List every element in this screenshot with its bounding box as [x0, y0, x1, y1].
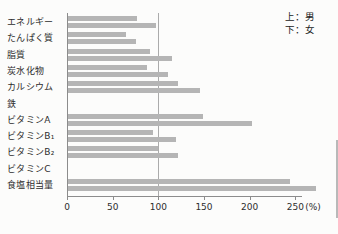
- x-tick-label-0: 0: [64, 202, 70, 212]
- x-tick-250: [295, 197, 296, 200]
- category-label-6: ビタミンA: [7, 115, 51, 125]
- bar-female-3: [68, 72, 168, 77]
- bar-male-0: [68, 16, 137, 21]
- bar-male-3: [68, 65, 147, 70]
- category-label-0: エネルギー: [7, 17, 54, 27]
- x-tick-50: [113, 197, 114, 200]
- category-label-3: 炭水化物: [7, 66, 44, 76]
- category-label-9: ビタミンC: [7, 164, 51, 174]
- bar-male-6: [68, 114, 203, 119]
- bar-female-2: [68, 56, 172, 61]
- x-tick-150: [204, 197, 205, 200]
- x-axis-unit-label: (%): [305, 202, 321, 212]
- reference-line-100pct: [158, 13, 159, 196]
- x-tick-200: [250, 197, 251, 200]
- bar-female-6: [68, 121, 252, 126]
- x-tick-label-200: 200: [241, 202, 258, 212]
- x-tick-label-150: 150: [195, 202, 212, 212]
- bar-male-1: [68, 32, 126, 37]
- x-tick-label-50: 50: [107, 202, 118, 212]
- category-label-4: カルシウム: [7, 82, 54, 92]
- category-label-8: ビタミンB₂: [7, 147, 55, 157]
- horizontal-bar-chart: エネルギーたんぱく質脂質炭水化物カルシウム鉄ビタミンAビタミンB₁ビタミンB₂ビ…: [0, 0, 338, 234]
- scanned-chart-page: 上：男 下：女 エネルギーたんぱく質脂質炭水化物カルシウム鉄ビタミンAビタミンB…: [0, 0, 338, 234]
- bar-male-4: [68, 81, 178, 86]
- category-label-2: 脂質: [7, 50, 26, 60]
- bar-male-7: [68, 130, 153, 135]
- bar-female-8: [68, 153, 178, 158]
- x-tick-label-250: 250: [287, 202, 304, 212]
- x-tick-100: [158, 197, 159, 200]
- bar-female-4: [68, 88, 200, 93]
- category-label-1: たんぱく質: [7, 33, 54, 43]
- bar-male-2: [68, 49, 150, 54]
- category-label-7: ビタミンB₁: [7, 131, 55, 141]
- bar-female-1: [68, 39, 136, 44]
- x-tick-label-100: 100: [150, 202, 167, 212]
- bar-female-10: [68, 186, 316, 191]
- bar-female-7: [68, 137, 176, 142]
- bar-female-0: [68, 23, 156, 28]
- bar-male-10: [68, 179, 290, 184]
- x-axis-line: [67, 196, 302, 197]
- category-label-10: 食塩相当量: [7, 180, 54, 190]
- bar-male-8: [68, 146, 158, 151]
- x-tick-0: [67, 197, 68, 200]
- category-label-5: 鉄: [7, 99, 16, 109]
